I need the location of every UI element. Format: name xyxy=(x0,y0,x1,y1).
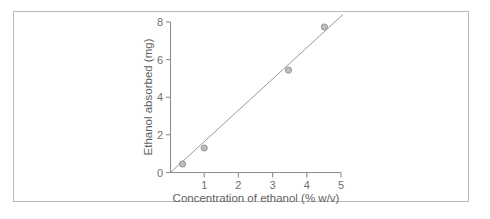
screenshot-root: 0 2 4 6 8 1 2 3 4 5 xyxy=(0,0,490,219)
figure-border xyxy=(13,11,469,202)
